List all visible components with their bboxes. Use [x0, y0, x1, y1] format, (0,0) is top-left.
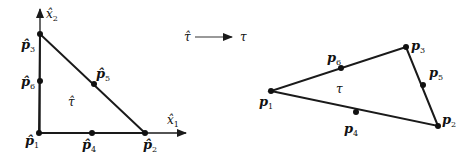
node-p-hat-2	[142, 130, 148, 136]
node-p-5	[420, 82, 426, 88]
mapping-group: τ̂ τ	[184, 30, 247, 44]
label-p-6: p6	[327, 50, 341, 67]
reference-element-label: τ̂	[68, 95, 75, 109]
label-p-1: p1	[259, 94, 273, 111]
label-p-hat-6: p̂6	[21, 74, 35, 91]
label-p-2: p2	[442, 112, 456, 129]
node-p-4	[353, 109, 359, 115]
label-p-3: p3	[411, 38, 425, 55]
node-p-hat-6	[37, 78, 43, 84]
y-axis-label: x̂2	[46, 7, 58, 23]
mapping-to-label: τ	[240, 30, 247, 44]
mapping-from-label: τ̂	[184, 30, 191, 44]
node-p-3	[403, 44, 409, 50]
label-p-hat-2: p̂2	[143, 137, 157, 154]
label-p-hat-5: p̂5	[96, 66, 110, 83]
node-p-2	[435, 123, 441, 129]
label-p-4: p4	[344, 121, 358, 138]
node-p-hat-4	[89, 130, 95, 136]
element-mapping-diagram: x̂2 x̂1 p̂3 p̂6 p̂5 p̂1 p̂4 p̂2 τ̂ τ̂ τ …	[0, 0, 473, 160]
reference-triangle-group: x̂2 x̂1 p̂3 p̂6 p̂5 p̂1 p̂4 p̂2 τ̂	[21, 7, 186, 154]
label-p-hat-3: p̂3	[21, 37, 35, 54]
label-p-hat-1: p̂1	[25, 133, 39, 150]
node-p-hat-5	[91, 81, 97, 87]
node-p-1	[268, 88, 274, 94]
physical-element-label: τ	[336, 82, 343, 96]
label-p-5: p5	[429, 65, 443, 82]
label-p-hat-4: p̂4	[82, 137, 96, 154]
x-axis-label: x̂1	[167, 113, 179, 129]
physical-triangle-group: p1 p2 p3 p4 p5 p6 τ	[259, 38, 456, 138]
node-p-hat-1	[36, 130, 42, 136]
node-p-hat-3	[37, 31, 43, 37]
